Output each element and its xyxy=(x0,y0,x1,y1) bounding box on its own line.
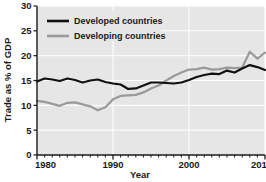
y-tick-label: 25 xyxy=(21,25,32,36)
y-axis-title: Trade as % of GDP xyxy=(2,37,13,122)
y-tick-label: 15 xyxy=(21,75,32,86)
legend-label: Developed countries xyxy=(74,16,163,26)
chart-legend: Developed countriesDeveloping countries xyxy=(39,11,166,41)
y-tick-label: 0 xyxy=(26,149,31,160)
y-tick-label: 30 xyxy=(21,0,32,11)
y-tick-label: 10 xyxy=(21,100,32,111)
x-tick-label: 1990 xyxy=(102,159,123,170)
x-tick-label: 1980 xyxy=(35,159,56,170)
line-chart: 051015202530 1980199020002010 Trade as %… xyxy=(0,0,266,182)
legend-label: Developing countries xyxy=(74,31,166,41)
y-tick-label: 5 xyxy=(26,125,32,136)
x-tick-label: 2000 xyxy=(178,159,199,170)
x-axis-title: Year xyxy=(130,169,150,180)
x-tick-label: 2010 xyxy=(251,159,266,170)
chart-container: 051015202530 1980199020002010 Trade as %… xyxy=(0,0,266,182)
y-tick-label: 20 xyxy=(21,50,32,61)
